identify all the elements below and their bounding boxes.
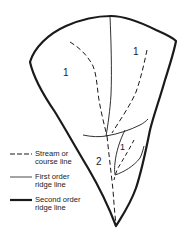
stream-line-upper-right	[112, 50, 147, 133]
order-label-upper-left: 1	[63, 67, 69, 78]
stream-line-upper-left	[70, 42, 107, 136]
legend-item-first-order: First order ridge line	[10, 173, 81, 189]
first-order-ridge-vertical	[106, 16, 111, 136]
legend-item-stream: Stream or course line	[10, 150, 81, 166]
legend-label-stream: Stream or course line	[35, 150, 72, 166]
order-label-lower: 2	[96, 156, 102, 167]
legend: Stream or course line First order ridge …	[10, 150, 81, 219]
order-label-upper-right: 1	[133, 46, 139, 57]
legend-item-second-order: Second order ridge line	[10, 196, 81, 212]
thick-line-swatch-icon	[10, 196, 32, 204]
legend-label-first-order: First order ridge line	[35, 173, 70, 189]
dashed-line-swatch-icon	[10, 150, 32, 158]
legend-label-second-order: Second order ridge line	[35, 196, 81, 212]
order-label-subbasin: 1	[120, 142, 125, 152]
first-order-ridge-subbasin	[115, 130, 144, 175]
stream-line-main	[107, 136, 116, 224]
thin-line-swatch-icon	[10, 173, 32, 181]
